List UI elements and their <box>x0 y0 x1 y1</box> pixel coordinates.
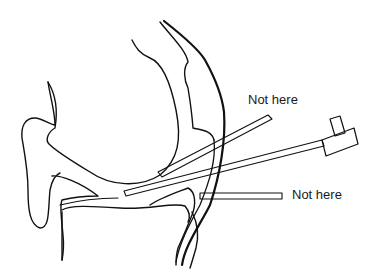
posterior-meniscus <box>150 188 195 265</box>
femur-inner-curve <box>47 40 178 184</box>
arthroscope-port <box>330 116 345 136</box>
knee-joint-diagram: Not here Not here <box>0 0 379 274</box>
tibial-plateau <box>62 205 189 222</box>
knee-drawing <box>0 0 379 274</box>
posterior-skin-line <box>164 21 224 265</box>
patella <box>22 82 60 228</box>
label-not-here-top: Not here <box>248 92 298 107</box>
label-not-here-bottom: Not here <box>292 187 342 202</box>
arthroscope-handle <box>322 128 358 156</box>
anterior-meniscus <box>52 176 98 260</box>
